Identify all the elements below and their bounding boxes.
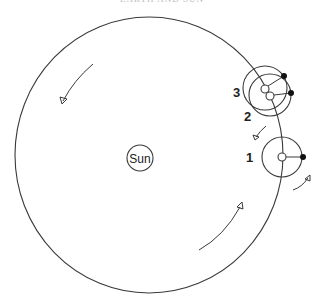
sun: Sun	[127, 145, 153, 171]
earth-position-1: 1	[246, 137, 306, 177]
orbit-arrow-lower-right	[199, 202, 243, 250]
position-label-2: 2	[244, 109, 251, 124]
observer-dot-marker	[300, 154, 306, 160]
earth-position-3: 3	[233, 66, 294, 116]
rotation-arrow-1	[293, 175, 310, 190]
position-label-3: 3	[233, 85, 240, 100]
position-label-1: 1	[246, 150, 253, 165]
earth-position-2: 2	[244, 109, 266, 140]
sun-label: Sun	[129, 152, 150, 166]
orbit-diagram: Sun 1 2 3	[0, 0, 324, 306]
observer-dot-marker-b	[288, 90, 294, 96]
earth-axis-hub-b	[266, 92, 274, 100]
earth-axis-hub	[278, 153, 286, 161]
observer-dot-marker-a	[281, 73, 287, 79]
arrowhead-icon	[237, 202, 243, 209]
arrowhead-icon	[253, 135, 259, 140]
earth-axis-hub-a	[261, 85, 269, 93]
orbit-arrow-upper-left	[60, 64, 93, 104]
